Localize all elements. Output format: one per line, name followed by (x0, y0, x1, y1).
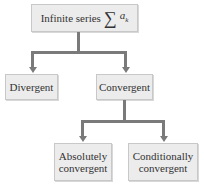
arrow-to-conditionally-icon (160, 136, 168, 142)
sigma-symbol: ∑ (104, 12, 117, 24)
series-term: ak (120, 9, 129, 26)
root-node: Infinite series ∑ ak (31, 4, 138, 32)
arrow-to-absolutely-icon (79, 136, 87, 142)
connector-to-convergent (124, 51, 127, 68)
divergent-node: Divergent (5, 74, 58, 100)
absolutely-line1: Absolutely (59, 150, 107, 162)
conditionally-convergent-node: Conditionally convergent (128, 143, 198, 181)
connector-convergent-down (123, 100, 126, 121)
root-label: Infinite series (41, 12, 101, 24)
absolutely-line2: convergent (59, 162, 108, 174)
connector-to-absolutely (81, 120, 84, 137)
conditionally-line2: convergent (139, 162, 188, 174)
arrow-to-convergent-icon (122, 67, 130, 73)
connector-level1-horizontal (31, 51, 127, 54)
connector-to-divergent (31, 51, 34, 68)
connector-to-conditionally (162, 120, 165, 137)
divergent-label: Divergent (10, 81, 54, 93)
arrow-to-divergent-icon (29, 67, 37, 73)
convergent-label: Convergent (99, 81, 150, 93)
connector-root-down (77, 32, 80, 52)
convergent-node: Convergent (96, 74, 153, 100)
conditionally-line1: Conditionally (133, 150, 194, 162)
absolutely-convergent-node: Absolutely convergent (54, 143, 112, 181)
connector-level2-horizontal (81, 120, 165, 123)
